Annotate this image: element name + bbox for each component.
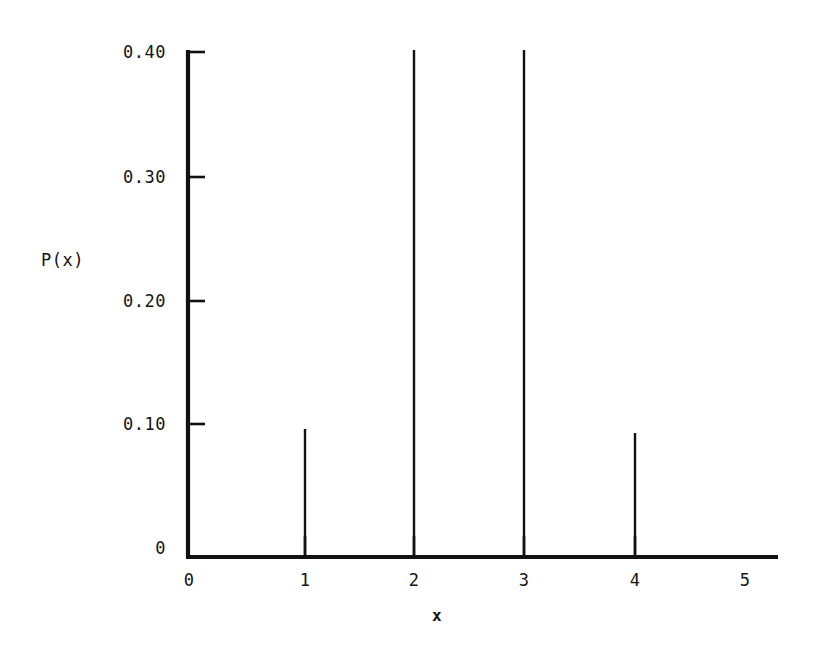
probability-chart: 0.40 0.30 0.20 0.10 0 0 1 2 3 4 5 P(x) x — [0, 0, 816, 657]
x-tick-label-3: 3 — [513, 570, 535, 590]
y-tick-label-0: 0 — [104, 538, 166, 558]
x-tick-label-2: 2 — [403, 570, 425, 590]
y-tick-label-0.10: 0.10 — [104, 414, 166, 434]
y-tick-label-0.40: 0.40 — [104, 42, 166, 62]
x-axis-title: x — [432, 606, 442, 625]
plot-area — [0, 0, 816, 657]
x-tick-label-0: 0 — [178, 570, 200, 590]
x-tick-label-1: 1 — [294, 570, 316, 590]
y-axis-title: P(x) — [41, 250, 84, 270]
x-tick-label-4: 4 — [624, 570, 646, 590]
y-tick-label-0.20: 0.20 — [104, 291, 166, 311]
x-tick-label-5: 5 — [734, 570, 756, 590]
y-tick-label-0.30: 0.30 — [104, 167, 166, 187]
